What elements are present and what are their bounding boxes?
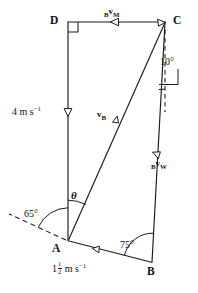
angle-label-75: 75° (120, 240, 134, 250)
speed-label-da-exponent: −1 (34, 105, 41, 113)
speed-label-ab-unit: m s (65, 263, 79, 274)
speed-label-ab-whole: 1 (52, 263, 57, 274)
vector-label-bvm-sub: M (113, 11, 119, 18)
speed-label-da-whole: 4 (12, 106, 17, 117)
angle-label-10: 10° (160, 57, 174, 67)
speed-label-ab-fraction: 12 (58, 261, 62, 275)
vertex-label-a: A (52, 243, 61, 255)
segment-ac (68, 23, 165, 241)
speed-label-ab-exponent: −1 (79, 262, 86, 270)
speed-label-ab: 112 m s−1 (52, 261, 86, 275)
angle-label-theta: θ (71, 190, 77, 201)
vector-label-bvw-sub: W (160, 163, 167, 170)
vector-label-vb: vB (97, 110, 106, 122)
diagram-canvas (0, 0, 198, 293)
angle-arc-65 (39, 208, 69, 227)
arrowhead-bvm (111, 18, 119, 26)
vector-label-bvm: BvM (104, 7, 119, 19)
speed-label-da: 4 m s−1 (12, 106, 41, 117)
right-angle-marker-d (68, 22, 78, 32)
speed-label-ab-denominator: 2 (58, 269, 62, 276)
arrowhead-vb (113, 116, 119, 123)
vector-label-bvw: BvW (151, 159, 167, 171)
vertex-label-b: B (147, 266, 155, 278)
segment-ab (68, 241, 153, 263)
angle-label-65: 65° (24, 209, 38, 219)
vertex-label-c: C (173, 15, 182, 27)
vector-diagram-figure: D C A B 10° 65° θ 75° BvM vB BvW 4 m s−1… (0, 0, 198, 293)
vector-label-vb-sub: B (102, 114, 107, 121)
speed-label-da-unit: m s (20, 106, 34, 117)
vertex-label-d: D (50, 15, 59, 27)
arrowhead-4ms (64, 109, 72, 117)
